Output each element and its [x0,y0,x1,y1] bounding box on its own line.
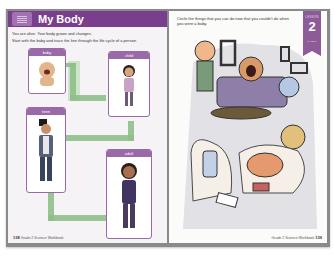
arrow-path [70,63,76,99]
baby-figure [29,56,65,92]
card-teen: teen [26,107,66,193]
page-number: 138 [13,235,20,240]
adult-figure [107,157,151,237]
card-baby: baby [28,48,66,94]
teen-figure [27,115,65,191]
footer-text: Grade 2 Science Workbook [21,236,64,240]
arrow-path [64,135,134,141]
card-label: teen [27,108,65,115]
page-header: My Body [8,11,167,27]
book-badge-icon [12,12,32,26]
page-number: 139 [315,235,322,240]
page-footer-left: 138 Grade 2 Science Workbook [13,235,63,240]
page-footer-right: Grade 2 Science Workbook 139 [272,235,322,240]
card-label: adult [107,150,151,157]
intro-line-2: Start with the baby and trace the line t… [12,38,137,43]
card-adult: adult [106,149,152,239]
left-page: My Body You are alive. Your body grows a… [8,11,167,243]
instruction-text: Circle the things that you can do now th… [177,16,295,26]
arrow-path [48,215,106,221]
workbook-spread: My Body You are alive. Your body grows a… [6,9,330,247]
lesson-number: 2 [303,19,321,34]
card-label: baby [29,49,65,56]
card-child: child [108,51,150,117]
right-page: Circle the things that you can do now th… [169,11,327,243]
child-figure [109,59,149,115]
card-label: child [109,52,149,59]
footer-text: Grade 2 Science Workbook [272,236,315,240]
intro-line-1: You are alive. Your body grows and chang… [12,31,92,36]
page-title: My Body [38,12,84,26]
kids-living-room-illustration [183,33,317,229]
arrow-path [70,95,106,101]
